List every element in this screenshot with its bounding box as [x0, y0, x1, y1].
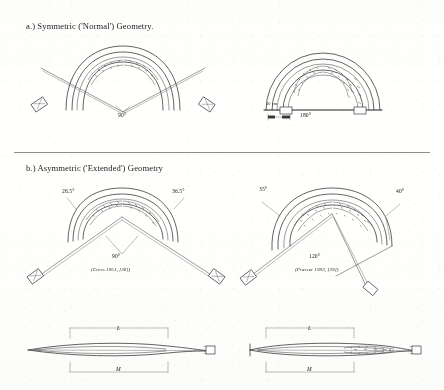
nock-bottom: [363, 281, 378, 295]
profile-right-upper-dimension: L: [308, 325, 311, 331]
nock-right: [198, 97, 215, 112]
nock-left: [27, 269, 44, 285]
figure-page: a.) Symmetric ('Normal') Geometry.: [0, 0, 444, 390]
profile-right: [248, 322, 428, 378]
diagram-b-right-limb-angle-right: 40°: [396, 188, 404, 194]
diagram-b-left-citation: (Cross 1951, [28]): [91, 267, 130, 272]
nock-right: [208, 269, 225, 285]
section-b-heading: b.) Asymmetric ('Extended') Geometry: [26, 163, 163, 173]
diagram-b-left: [26, 182, 226, 292]
diagram-b-left-limb-angle-left: 26.5°: [62, 188, 75, 194]
nock-left: [240, 270, 257, 286]
diagram-b-right-citation: (Prasser 1993, [29]): [295, 267, 339, 272]
profile-right-lower-dimension: M: [307, 366, 312, 372]
diagram-b-right-angle-label: 120°: [309, 253, 320, 259]
diagram-a-left: [28, 38, 218, 118]
profile-left: [28, 322, 218, 378]
diagram-a-right-scale-label: 10 cm: [266, 101, 277, 106]
section-divider: [14, 152, 430, 153]
diagram-a-right-angle-label: 180°: [300, 112, 311, 118]
diagram-b-left-limb-angle-right: 36.5°: [172, 188, 185, 194]
diagram-b-left-angle-label: 90°: [112, 253, 120, 259]
diagram-b-right: [240, 180, 425, 292]
nock-left: [31, 97, 48, 112]
diagram-a-right: [258, 34, 388, 116]
section-a-heading: a.) Symmetric ('Normal') Geometry.: [26, 21, 153, 31]
profile-left-lower-dimension: M: [116, 366, 121, 372]
profile-left-upper-dimension: L: [117, 325, 120, 331]
diagram-b-right-limb-angle-left: 35°: [259, 186, 267, 192]
scale-bar-a-right: [266, 108, 292, 122]
diagram-a-left-angle-label: 90°: [118, 112, 126, 118]
